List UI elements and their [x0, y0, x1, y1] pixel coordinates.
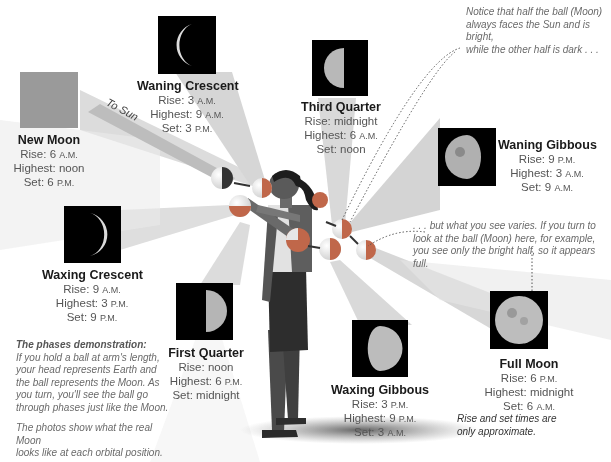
- moon-full-icon: [490, 291, 548, 349]
- moon-first-quarter-icon: [176, 283, 233, 340]
- moon-crescent-icon: [158, 16, 216, 74]
- phase-new-moon: New Moon Rise: 6 A.M. Highest: noon Set:…: [4, 133, 94, 190]
- phase-name: New Moon: [4, 133, 94, 148]
- phase-waxing-crescent: Waxing Crescent Rise: 9 A.M. Highest: 3 …: [42, 268, 142, 325]
- full-moon-photo: [490, 291, 548, 349]
- phase-third-quarter: Third Quarter Rise: midnight Highest: 6 …: [296, 100, 386, 157]
- phase-name: Waxing Gibbous: [330, 383, 430, 398]
- new-moon-photo: [20, 72, 78, 128]
- phase-waning-crescent: Waning Crescent Rise: 3 A.M. Highest: 9 …: [137, 79, 237, 136]
- waning-crescent-photo: [158, 16, 216, 74]
- moon-waxing-gibbous-icon: [352, 320, 408, 377]
- third-quarter-photo: [312, 40, 368, 96]
- beam-first-quarter: [200, 222, 250, 285]
- moon-phases-diagram: To Sun New Moon Rise: 6 A.M. Highest: no…: [0, 0, 611, 462]
- moon-third-quarter-icon: [312, 40, 368, 96]
- moon-waxing-crescent-icon: [64, 206, 121, 263]
- note-half-faces-sun: Notice that half the ball (Moon) always …: [466, 6, 611, 56]
- moon-waning-gibbous-icon: [438, 128, 496, 186]
- phase-full-moon: Full Moon Rise: 6 P.M. Highest: midnight…: [474, 357, 584, 414]
- person-figure: [244, 170, 318, 438]
- note-approximate: Rise and set times are only approximate.: [457, 413, 597, 438]
- phase-name: Waning Crescent: [137, 79, 237, 94]
- demo-title: The phases demonstration:: [16, 339, 176, 352]
- waxing-crescent-photo: [64, 206, 121, 263]
- phase-name: Waning Gibbous: [498, 138, 596, 153]
- phase-name: Full Moon: [474, 357, 584, 372]
- first-quarter-photo: [176, 283, 233, 340]
- note-demonstration: The phases demonstration: If you hold a …: [16, 339, 176, 460]
- waxing-gibbous-photo: [352, 320, 408, 377]
- phase-name: Third Quarter: [296, 100, 386, 115]
- phase-waning-gibbous: Waning Gibbous Rise: 9 P.M. Highest: 3 A…: [498, 138, 596, 195]
- phase-name: Waxing Crescent: [42, 268, 142, 283]
- waning-gibbous-photo: [438, 128, 496, 186]
- note-what-you-see: . . . but what you see varies. If you tu…: [413, 220, 611, 270]
- phase-waxing-gibbous: Waxing Gibbous Rise: 3 P.M. Highest: 9 P…: [330, 383, 430, 440]
